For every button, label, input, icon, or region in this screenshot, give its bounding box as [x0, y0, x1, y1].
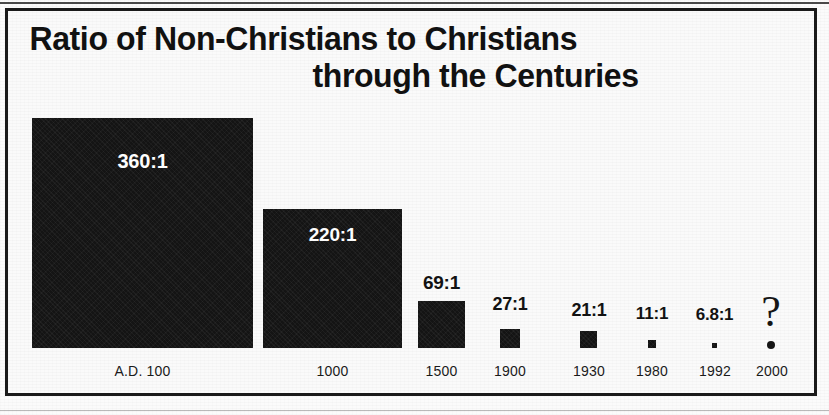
- bar-1930: [580, 331, 597, 348]
- question-mark-dot: [767, 341, 775, 349]
- axis-tick-label-1930: 1930: [554, 363, 624, 379]
- bar-value-label-ad-100: 360:1: [32, 150, 253, 173]
- axis-tick-label-2000: 2000: [739, 363, 805, 379]
- bar-1980: [648, 340, 656, 348]
- axis-tick-label-1000: 1000: [263, 363, 402, 379]
- axis-tick-label-1980: 1980: [619, 363, 685, 379]
- axis-tick-label-ad-100: A.D. 100: [32, 363, 253, 379]
- bar-value-label-1500: 69:1: [409, 272, 474, 294]
- chart-figure: Ratio of Non-Christians to Christians th…: [0, 0, 829, 415]
- bar-1900: [500, 329, 520, 348]
- bar-1992: [712, 343, 717, 348]
- bar-value-label-1930: 21:1: [557, 300, 621, 321]
- bar-value-label-1992: 6.8:1: [683, 305, 746, 325]
- bar-value-label-1900: 27:1: [478, 294, 542, 315]
- question-mark-symbol: ?: [752, 290, 790, 334]
- bar-1500: [418, 301, 465, 348]
- bar-value-label-1000: 220:1: [263, 224, 402, 246]
- axis-tick-label-1500: 1500: [406, 363, 477, 379]
- plot-area: 360:1 A.D. 100 220:1 1000 69:1 1500 27:1…: [0, 0, 829, 415]
- axis-tick-label-1900: 1900: [475, 363, 545, 379]
- bar-value-label-1980: 11:1: [622, 304, 682, 324]
